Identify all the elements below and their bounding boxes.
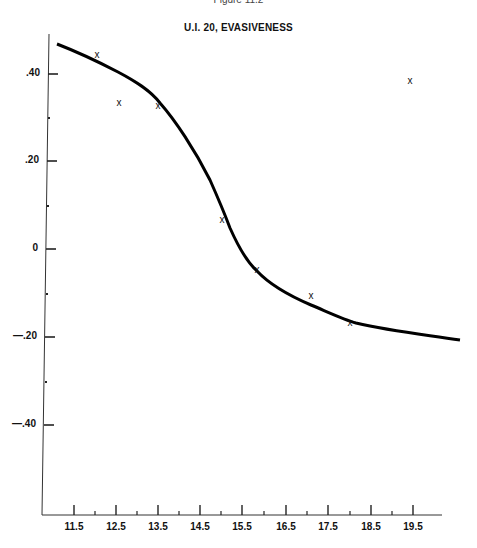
- marker: x: [117, 97, 122, 108]
- x-tick-label: 17.5: [308, 521, 348, 532]
- x-tick-label: 18.5: [351, 521, 391, 532]
- marker: x: [309, 290, 314, 301]
- marker: x: [255, 264, 260, 275]
- y-tick-label: 0: [0, 242, 38, 253]
- y-axis: [42, 34, 49, 515]
- y-tick-label: —.20: [0, 330, 37, 341]
- data-markers: x x x x x x x x: [95, 49, 413, 328]
- x-tick-label: 19.5: [393, 521, 433, 532]
- x-tick-label: 16.5: [266, 521, 306, 532]
- x-tick-label: 11.5: [54, 521, 94, 532]
- x-tick-label: 15.5: [222, 521, 262, 532]
- marker: x: [348, 317, 353, 328]
- y-tick-label: .20: [0, 154, 39, 165]
- x-tick-label: 13.5: [138, 521, 178, 532]
- x-ticks: [74, 505, 413, 515]
- x-tick-label: 12.5: [96, 521, 136, 532]
- y-tick-label: .40: [0, 67, 40, 78]
- marker: x: [220, 214, 225, 225]
- fitted-curve: [57, 44, 460, 340]
- marker: x: [95, 49, 100, 60]
- marker: x: [156, 100, 161, 111]
- y-tick-label: —.40: [0, 418, 36, 429]
- marker: x: [408, 75, 413, 86]
- plot-area: x x x x x x x x: [0, 0, 477, 548]
- x-minor-ticks: [95, 511, 392, 515]
- x-tick-label: 14.5: [180, 521, 220, 532]
- y-ticks: [44, 74, 58, 425]
